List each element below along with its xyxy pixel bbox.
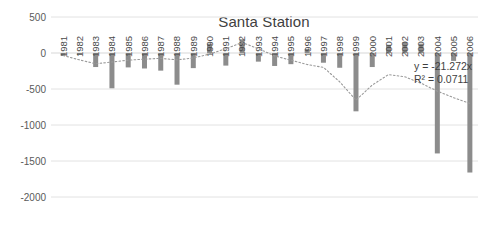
x-tick-label: 1986 <box>139 36 150 57</box>
x-tick-label: 2005 <box>448 36 459 57</box>
x-tick-label: 2004 <box>432 36 443 57</box>
x-tick-label: 1996 <box>302 36 313 57</box>
y-tick-label: -1000 <box>20 120 46 131</box>
bar-series <box>61 39 473 172</box>
x-tick-label: 2000 <box>367 36 378 57</box>
y-tick-label: -2000 <box>20 192 46 203</box>
x-tick-label: 2006 <box>464 36 475 57</box>
trendline-equation-text: y = -21.272x <box>414 60 473 72</box>
x-tick-label: 1982 <box>74 36 85 57</box>
x-tick-label: 1983 <box>90 36 101 57</box>
x-tick-label: 2002 <box>399 36 410 57</box>
x-tick-label: 2001 <box>383 36 394 57</box>
x-tick-label: 1999 <box>350 36 361 57</box>
x-tick-label: 1991 <box>220 36 231 57</box>
x-tick-label: 1998 <box>334 36 345 57</box>
x-tick-label: 1988 <box>171 36 182 57</box>
x-tick-label: 1993 <box>253 36 264 57</box>
trendline-r2-text: R² = 0.0711 <box>414 73 469 85</box>
bar <box>109 53 114 88</box>
chart-plot-area: 5000-500-1000-1500-2000 1981198219831984… <box>0 0 498 225</box>
y-tick-label: 0 <box>40 48 46 59</box>
x-tick-label: 1997 <box>318 36 329 57</box>
x-tick-label: 1985 <box>123 36 134 57</box>
x-tick-label: 1981 <box>58 36 69 57</box>
x-tick-label: 1992 <box>236 36 247 57</box>
x-axis-tick-labels: 1981198219831984198519861987198819891990… <box>58 36 476 57</box>
x-tick-label: 1995 <box>285 36 296 57</box>
y-tick-label: -1500 <box>20 156 46 167</box>
x-tick-label: 1987 <box>155 36 166 57</box>
trendline-equation-label: y = -21.272xR² = 0.0711 <box>414 60 473 85</box>
x-tick-label: 1989 <box>188 36 199 57</box>
y-tick-label: 500 <box>29 12 46 23</box>
y-axis-tick-labels: 5000-500-1000-1500-2000 <box>20 12 46 203</box>
y-tick-label: -500 <box>26 84 46 95</box>
chart-container: Santa Station 5000-500-1000-1500-2000 19… <box>0 0 498 225</box>
bar <box>353 53 358 111</box>
x-tick-label: 1984 <box>106 36 117 57</box>
x-tick-label: 2003 <box>415 36 426 57</box>
